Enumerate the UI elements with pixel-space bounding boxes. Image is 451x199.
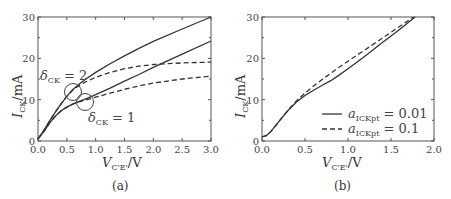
y-tick-label: 30 [246, 12, 259, 23]
panel-b-xlabel: VC'E'/V [322, 155, 362, 172]
panel-a-chart: 0.00.51.01.52.02.53.00102030 δCK = 2 δCK… [10, 12, 219, 193]
delta1-label: δCK = 1 [88, 110, 135, 127]
panel-b-legend: aICKpt = 0.01 aICKpt = 0.1 [322, 106, 427, 138]
x-tick-label: 1.0 [88, 144, 104, 155]
y-tick-label: 0 [253, 136, 259, 147]
panel-b-chart: 0.00.51.01.52.00102030 aICKpt = 0.01 aIC… [233, 12, 442, 193]
series-line [38, 76, 211, 139]
delta2-circle [65, 84, 82, 101]
x-tick-label: 3.0 [203, 144, 219, 155]
y-tick-label: 20 [22, 53, 35, 64]
x-tick-label: 0.5 [297, 144, 313, 155]
x-tick-label: 2.5 [174, 144, 190, 155]
x-tick-label: 0.5 [59, 144, 75, 155]
panel-a-caption: (a) [112, 179, 129, 193]
panel-b-caption: (b) [334, 179, 351, 193]
legend-item-2: aICKpt = 0.1 [348, 121, 419, 138]
x-tick-label: 2.0 [145, 144, 161, 155]
panel-b-ylabel: ICK/mA [233, 74, 250, 119]
y-tick-label: 30 [22, 12, 35, 23]
x-tick-label: 1.5 [117, 144, 133, 155]
panel-a-ylabel: ICK/mA [10, 74, 27, 119]
panel-a-xlabel: VC'E'/V [102, 155, 142, 172]
x-tick-label: 1.0 [340, 144, 356, 155]
y-tick-label: 20 [246, 53, 259, 64]
x-tick-label: 1.5 [383, 144, 399, 155]
x-tick-label: 2.0 [426, 144, 442, 155]
delta2-label: δCK = 2 [40, 68, 87, 85]
y-tick-label: 0 [29, 136, 35, 147]
figure: 0.00.51.01.52.02.53.00102030 δCK = 2 δCK… [0, 0, 451, 199]
